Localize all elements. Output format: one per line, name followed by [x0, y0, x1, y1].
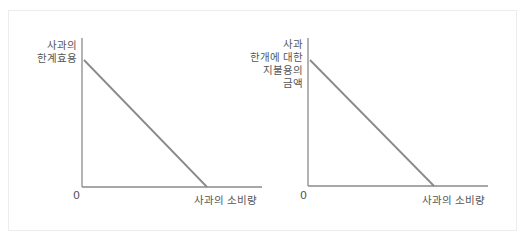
right-y-label-line-2: 한개에 대한 — [250, 51, 303, 64]
right-y-label-line-4: 금액 — [250, 77, 303, 90]
left-origin-label: 0 — [73, 189, 80, 202]
left-y-label-line-2: 한계효용 — [37, 52, 77, 65]
right-origin-label: 0 — [300, 189, 307, 202]
right-y-axis-label: 사과 한개에 대한 지불용의 금액 — [250, 38, 303, 90]
left-x-axis-label: 사과의 소비량 — [194, 192, 257, 207]
left-marginal-utility-line — [84, 60, 207, 187]
left-y-label-line-1: 사과의 — [37, 39, 77, 52]
left-y-axis-label: 사과의 한계효용 — [37, 39, 77, 65]
right-willingness-to-pay-line — [310, 60, 434, 186]
right-y-label-line-1: 사과 — [250, 38, 303, 51]
right-y-label-line-3: 지불용의 — [250, 64, 303, 77]
right-chart — [308, 38, 488, 186]
right-x-axis-label: 사과의 소비량 — [422, 192, 485, 207]
charts-canvas — [0, 0, 527, 244]
left-chart — [82, 38, 262, 187]
